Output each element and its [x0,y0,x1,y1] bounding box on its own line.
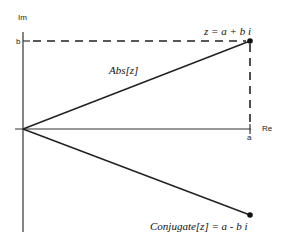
conjugate-label: Conjugate[z] = a - b i [150,220,248,232]
modulus-vector [23,41,250,129]
modulus-label: Abs[z] [108,64,138,76]
conjugate-point-dot [247,212,253,218]
z-point-label: z = a + b i [203,25,251,37]
re-axis-label: Re [262,124,273,133]
im-axis-label: Im [18,13,27,22]
conjugate-vector [23,129,250,215]
z-point-dot [247,38,253,44]
a-tick-label: a [247,133,252,142]
complex-plane-diagram: Im Re b a z = a + b i Abs[z] Conjugate[z… [0,0,286,247]
b-tick-label: b [16,37,21,46]
